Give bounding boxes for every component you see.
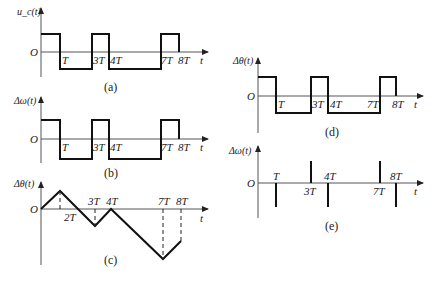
- tick-label: 2T: [64, 211, 77, 223]
- tick-label: 3T: [311, 98, 325, 110]
- tick-label: 4T: [330, 98, 343, 110]
- tick-label: 4T: [110, 141, 123, 153]
- tick-label: 3T: [303, 185, 317, 197]
- origin-label: O: [247, 90, 255, 102]
- tick-label: 7T: [158, 195, 171, 207]
- tick-label: T: [62, 54, 69, 66]
- origin-label: O: [30, 133, 38, 145]
- panel-b: Δω(t) O T 3T 4T 7T 8T t (b): [13, 95, 208, 180]
- tick-label: T: [273, 170, 280, 182]
- panel-c: Δθ(t) O 2T 3T 4T 7T 8T t (c): [13, 178, 208, 267]
- y-axis-label: Δω(t): [228, 145, 252, 157]
- tick-label: 8T: [178, 54, 191, 66]
- panel-a: u_c(t) O T 3T 4T 7T 8T t (a): [17, 6, 208, 94]
- x-axis-label: t: [414, 185, 418, 197]
- panel-e: Δω(t) O T 3T 4T 7T 8T t (e): [228, 145, 423, 233]
- caption: (b): [104, 166, 118, 180]
- tick-label: 7T: [367, 98, 380, 110]
- caption: (a): [104, 80, 117, 94]
- tick-label: 8T: [392, 98, 405, 110]
- origin-label: O: [30, 203, 38, 215]
- figure: u_c(t) O T 3T 4T 7T 8T t (a) Δω(t) O T 3…: [0, 0, 434, 281]
- tick-label: 3T: [87, 195, 101, 207]
- tick-label: 8T: [178, 141, 191, 153]
- x-axis-label: t: [200, 54, 204, 66]
- origin-label: O: [247, 177, 255, 189]
- panel-d: Δθ(t) O T 3T 4T 7T 8T t (d): [232, 55, 423, 139]
- tick-label: 8T: [390, 170, 403, 182]
- tick-label: 8T: [176, 195, 189, 207]
- tick-label: 7T: [373, 185, 386, 197]
- tick-label: T: [62, 141, 69, 153]
- tick-label: 4T: [324, 170, 337, 182]
- caption: (d): [325, 125, 339, 139]
- y-axis-label: u_c(t): [17, 6, 42, 18]
- y-axis-label: Δω(t): [13, 95, 37, 107]
- y-axis-label: Δθ(t): [232, 55, 254, 67]
- caption: (c): [104, 253, 117, 267]
- tick-label: 3T: [92, 54, 106, 66]
- y-axis-label: Δθ(t): [13, 178, 35, 190]
- tick-label: 4T: [106, 195, 119, 207]
- caption: (e): [325, 219, 338, 233]
- tick-label: 3T: [92, 141, 106, 153]
- tick-label: T: [278, 98, 285, 110]
- tick-label: 7T: [161, 54, 174, 66]
- x-axis-label: t: [414, 98, 418, 110]
- tick-label: 7T: [161, 141, 174, 153]
- tick-label: 4T: [110, 54, 123, 66]
- x-axis-label: t: [200, 212, 204, 224]
- origin-label: O: [30, 46, 38, 58]
- x-axis-label: t: [200, 141, 204, 153]
